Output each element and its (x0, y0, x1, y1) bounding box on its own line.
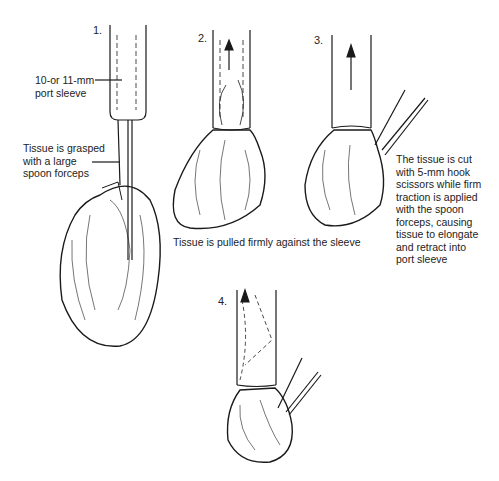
port-sleeve-4 (237, 290, 276, 387)
tissue-4 (228, 358, 322, 462)
pulled-tissue-caption: Tissue is pulled firmly against the slee… (173, 236, 361, 249)
step-number-4: 4. (218, 295, 227, 307)
cut-tissue-label: The tissue is cut with 5-mm hook scissor… (396, 153, 481, 266)
port-sleeve-3 (332, 35, 371, 128)
step-number-1: 1. (93, 24, 102, 36)
grasp-tissue-label: Tissue is grasped with a large spoon for… (23, 142, 105, 180)
tissue-2 (173, 130, 265, 229)
tissue-1 (60, 182, 160, 346)
step-number-3: 3. (314, 34, 323, 46)
step-number-2: 2. (198, 32, 207, 44)
port-sleeve-label: 10-or 11-mm port sleeve (35, 74, 94, 99)
port-sleeve-2 (213, 30, 250, 130)
